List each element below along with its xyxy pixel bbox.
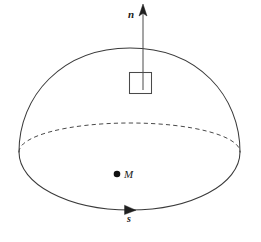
center-point-label: M xyxy=(124,169,133,180)
normal-vector-label: n xyxy=(128,9,134,20)
boundary-curve-label: s xyxy=(127,214,131,224)
square-patch-icon xyxy=(130,73,152,94)
base-ellipse-front-path xyxy=(19,152,240,210)
base-ellipse-back-path xyxy=(19,123,240,152)
filled-dot-icon xyxy=(114,171,121,178)
diagram-canvas xyxy=(0,0,261,242)
dome-outline-path xyxy=(19,48,240,152)
hemisphere-diagram: n M s xyxy=(0,0,261,242)
